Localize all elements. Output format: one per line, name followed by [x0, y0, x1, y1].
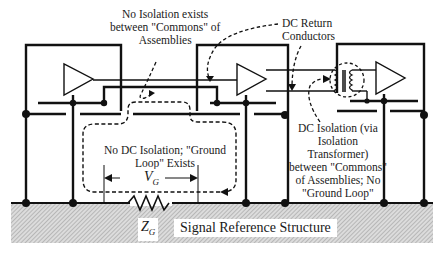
junction-dot — [214, 100, 220, 106]
ground-bond-dot — [242, 199, 250, 207]
label-line: between "Commons" — [289, 161, 387, 174]
junction-dot — [364, 98, 369, 103]
zg-symbol: Z — [141, 219, 149, 234]
label-line: "Ground Loop" — [289, 187, 387, 200]
label-line: No Isolation exists — [110, 8, 220, 21]
zg-label: ZG — [138, 218, 158, 241]
label-line: Conductors — [282, 30, 335, 43]
junction-dot — [420, 111, 428, 119]
label-line: of Assemblies; No — [289, 174, 387, 187]
amplifier-3 — [376, 62, 405, 94]
junction-dot — [70, 100, 76, 106]
label-line: DC Isolation (via — [289, 122, 387, 135]
dc-isolation-label: DC Isolation (via Isolation Transformer)… — [289, 122, 387, 200]
zg-subscript: G — [149, 227, 156, 237]
amplifier-2 — [237, 64, 266, 95]
label-line: between "Commons" of — [110, 21, 220, 34]
junction-dot — [281, 111, 289, 119]
label-line: Loop" Exists — [104, 157, 226, 170]
label-line: Isolation — [289, 135, 387, 148]
no-isolation-label: No Isolation exists between "Commons" of… — [110, 8, 220, 47]
dc-isolation-pointer — [309, 75, 331, 122]
vg-label: VG — [141, 169, 162, 190]
isolation-transformer — [330, 63, 364, 97]
amplifier-1 — [64, 64, 93, 95]
label-line: Assemblies — [110, 34, 220, 47]
signal-reference-structure-label: Signal Reference Structure — [174, 219, 337, 237]
dc-return-label: DC Return Conductors — [282, 17, 335, 43]
srs-text: Signal Reference Structure — [180, 220, 331, 235]
ground-bond-dot — [380, 199, 388, 207]
junction-dot — [243, 100, 249, 106]
signal-cable-1 — [93, 80, 237, 103]
junction-dot — [381, 98, 387, 104]
ground-bond-dot — [22, 199, 30, 207]
vg-symbol: V — [144, 169, 153, 184]
signal-cable-2 — [266, 70, 376, 103]
label-line: Transformer) — [289, 148, 387, 161]
label-line: DC Return — [282, 17, 335, 30]
ground-bond-dot — [69, 199, 77, 207]
ground-bond-dot — [281, 199, 289, 207]
no-dc-isolation-label: No DC Isolation; "Ground Loop" Exists — [104, 144, 226, 170]
label-line: No DC Isolation; "Ground — [104, 144, 226, 157]
junction-dot — [22, 110, 30, 118]
ground-bond-dot — [420, 199, 428, 207]
vg-subscript: G — [153, 177, 160, 187]
